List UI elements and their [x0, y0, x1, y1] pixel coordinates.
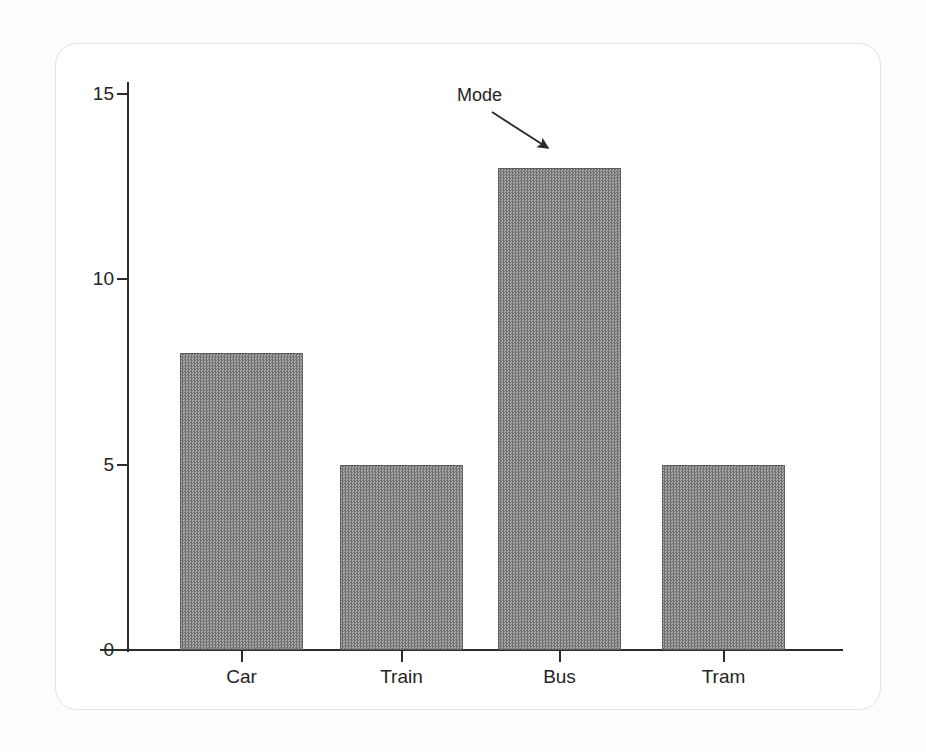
figure-card	[55, 43, 881, 710]
page-background: 051015 CarTrainBusTram Mode	[0, 0, 926, 752]
